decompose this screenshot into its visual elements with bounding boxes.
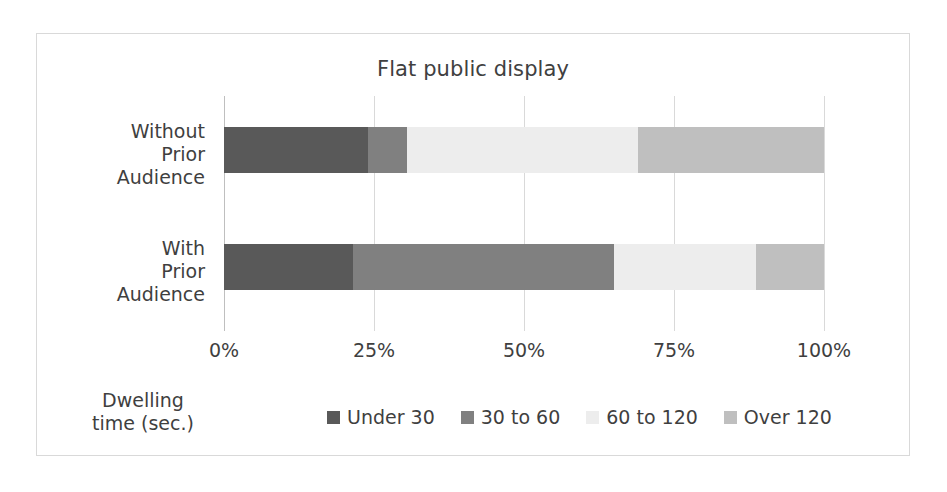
x-axis-tick-label: 100% xyxy=(797,339,851,361)
y-axis-label-line: Audience xyxy=(45,166,205,189)
legend-swatch-icon xyxy=(327,411,340,424)
legend-title-line: Dwelling xyxy=(63,389,223,412)
y-axis-label-line: Prior xyxy=(45,260,205,283)
bar-segment xyxy=(407,127,638,173)
bar-segment xyxy=(614,244,756,290)
bar-segment xyxy=(756,244,824,290)
legend-swatch-icon xyxy=(461,411,474,424)
chart-container: Flat public display Without Prior Audien… xyxy=(36,33,910,456)
x-axis-tick-labels: 0%25%50%75%100% xyxy=(224,339,824,367)
y-axis-label-line: Audience xyxy=(45,283,205,306)
y-axis-label-with-prior-audience: With Prior Audience xyxy=(45,237,205,306)
y-axis-label-line: Without xyxy=(45,120,205,143)
bar-row xyxy=(224,244,824,290)
bar-segment xyxy=(224,127,368,173)
legend-label: Under 30 xyxy=(347,406,435,428)
gridline xyxy=(824,96,825,331)
plot-area xyxy=(224,96,824,331)
legend-item[interactable]: 30 to 60 xyxy=(461,406,561,428)
legend-label: Over 120 xyxy=(744,406,832,428)
y-axis-label-line: With xyxy=(45,237,205,260)
bar-segment xyxy=(368,127,407,173)
x-axis-tick-label: 25% xyxy=(353,339,395,361)
legend-title-line: time (sec.) xyxy=(63,412,223,435)
chart-title: Flat public display xyxy=(37,57,909,81)
legend: Under 3030 to 6060 to 120Over 120 xyxy=(327,406,832,428)
bar-row xyxy=(224,127,824,173)
legend-label: 60 to 120 xyxy=(606,406,698,428)
x-axis-tick-label: 0% xyxy=(209,339,239,361)
bar-segment xyxy=(224,244,353,290)
legend-title: Dwelling time (sec.) xyxy=(63,389,223,435)
x-axis-tick-label: 75% xyxy=(653,339,695,361)
legend-item[interactable]: 60 to 120 xyxy=(586,406,698,428)
x-axis-tick-label: 50% xyxy=(503,339,545,361)
y-axis-label-without-prior-audience: Without Prior Audience xyxy=(45,120,205,189)
bar-segment xyxy=(353,244,614,290)
legend-item[interactable]: Under 30 xyxy=(327,406,435,428)
legend-swatch-icon xyxy=(586,411,599,424)
legend-swatch-icon xyxy=(724,411,737,424)
bar-segment xyxy=(638,127,824,173)
y-axis-label-line: Prior xyxy=(45,143,205,166)
legend-label: 30 to 60 xyxy=(481,406,561,428)
legend-item[interactable]: Over 120 xyxy=(724,406,832,428)
